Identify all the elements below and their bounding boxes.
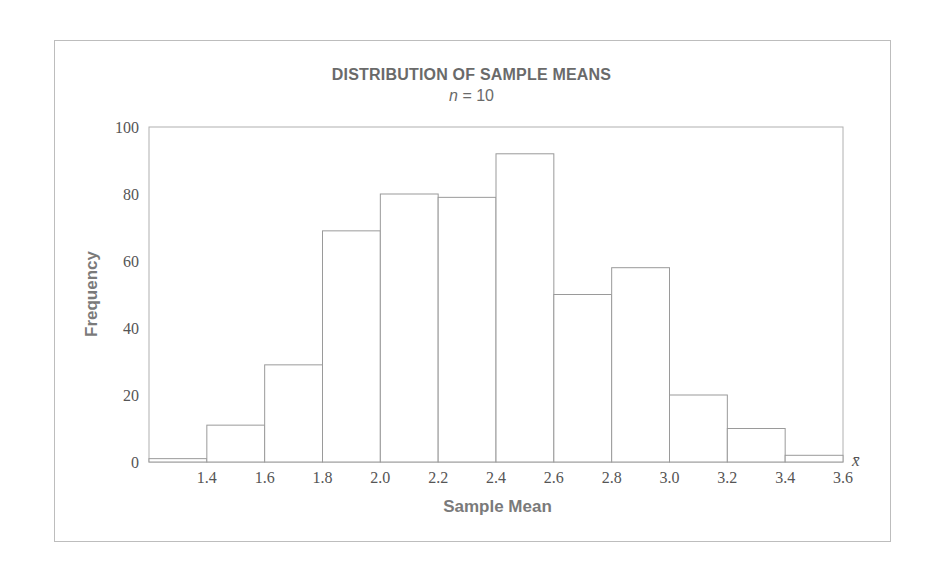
y-tick-label: 0 <box>131 454 139 471</box>
y-tick-label: 80 <box>123 186 139 203</box>
bars <box>149 154 843 462</box>
x-tick-label: 2.2 <box>428 469 448 486</box>
histogram-plot: 020406080100 1.41.61.82.02.22.42.62.83.0… <box>0 0 943 585</box>
histogram-bar <box>670 395 728 462</box>
histogram-bar <box>612 268 670 462</box>
y-tick-label: 40 <box>123 320 139 337</box>
histogram-bar <box>554 295 612 463</box>
x-bar-symbol: x̄ <box>851 451 860 470</box>
x-tick-label: 2.0 <box>370 469 390 486</box>
histogram-bar <box>149 459 207 462</box>
x-axis-ticks: 1.41.61.82.02.22.42.62.83.03.23.43.6 <box>197 469 853 486</box>
histogram-bar <box>265 365 323 462</box>
histogram-bar <box>496 154 554 462</box>
x-tick-label: 1.6 <box>255 469 275 486</box>
x-tick-label: 3.6 <box>833 469 853 486</box>
y-axis-ticks: 020406080100 <box>115 119 139 471</box>
x-tick-label: 2.4 <box>486 469 506 486</box>
histogram-bar <box>207 425 265 462</box>
x-tick-label: 3.2 <box>717 469 737 486</box>
x-tick-label: 3.4 <box>775 469 795 486</box>
histogram-bar <box>727 429 785 463</box>
x-tick-label: 2.6 <box>544 469 564 486</box>
x-tick-label: 2.8 <box>602 469 622 486</box>
y-tick-label: 60 <box>123 253 139 270</box>
x-tick-label: 3.0 <box>660 469 680 486</box>
x-tick-label: 1.4 <box>197 469 217 486</box>
x-tick-label: 1.8 <box>313 469 333 486</box>
histogram-bar <box>380 194 438 462</box>
histogram-bar <box>438 197 496 462</box>
y-tick-label: 20 <box>123 387 139 404</box>
histogram-bar <box>323 231 381 462</box>
histogram-bar <box>785 455 843 462</box>
y-tick-label: 100 <box>115 119 139 136</box>
